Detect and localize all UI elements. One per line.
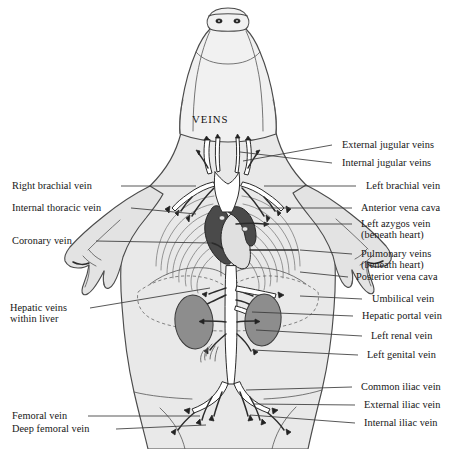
label-internal-iliac-vein: Internal iliac vein xyxy=(364,418,438,429)
label-posterior-vena-cava: Posterior vena cava xyxy=(356,272,438,283)
label-left-azygos-vein: Left azygos vein(beneath heart) xyxy=(361,219,430,241)
label-left-azygos-vein-line2: (beneath heart) xyxy=(361,230,430,241)
label-deep-femoral-vein: Deep femoral vein xyxy=(12,424,89,435)
label-femoral-vein: Femoral vein xyxy=(12,411,67,422)
label-external-iliac-vein: External iliac vein xyxy=(364,400,440,411)
label-internal-jugular-veins: Internal jugular veins xyxy=(342,158,431,169)
label-hepatic-portal-vein: Hepatic portal vein xyxy=(362,311,442,322)
label-pulmonary-veins-line2: (beneath heart) xyxy=(361,260,431,271)
label-common-iliac-vein: Common iliac vein xyxy=(361,382,441,393)
label-pulmonary-veins: Pulmonary veins(beneath heart) xyxy=(361,249,431,271)
figure-title: VEINS xyxy=(192,113,228,125)
label-internal-thoracic-vein: Internal thoracic vein xyxy=(12,203,101,214)
label-left-renal-vein: Left renal vein xyxy=(371,331,432,342)
label-umbilical-vein: Umbilical vein xyxy=(372,294,434,305)
pig-venous-anatomy-figure: .out { fill:none; stroke:#4b4b4b; stroke… xyxy=(0,0,456,449)
label-hepatic-veins-line2: within liver xyxy=(10,314,67,325)
label-left-genital-vein: Left genital vein xyxy=(367,350,436,361)
label-coronary-vein: Coronary vein xyxy=(12,236,72,247)
label-left-brachial-vein: Left brachial vein xyxy=(366,181,440,192)
label-hepatic-veins: Hepatic veinswithin liver xyxy=(10,303,67,325)
label-right-brachial-vein: Right brachial vein xyxy=(12,181,92,192)
label-external-jugular-veins: External jugular veins xyxy=(342,140,434,151)
label-anterior-vena-cava: Anterior vena cava xyxy=(361,203,440,214)
